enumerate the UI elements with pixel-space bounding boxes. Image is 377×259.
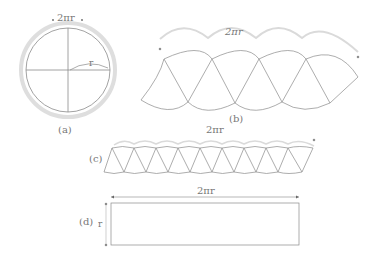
panel-d-width-label: 2πr	[197, 185, 215, 196]
panel-a-circumference-label: 2πr	[57, 12, 75, 23]
circle-area-diagram	[0, 0, 377, 259]
panel-b-label: (b)	[229, 113, 243, 124]
panel-a-radius-label: r	[89, 58, 93, 68]
panel-a-circle	[21, 19, 115, 117]
panel-c-label: (c)	[89, 153, 102, 164]
panel-b-circumference-label: 2πr	[225, 26, 243, 37]
panel-a-label: (a)	[58, 124, 72, 135]
panel-d-rectangle	[105, 196, 299, 246]
panel-b-sectors	[141, 28, 359, 110]
panel-c-sectors	[104, 139, 315, 173]
panel-d-height-label: r	[98, 219, 102, 229]
panel-c-circumference-label: 2πr	[206, 124, 224, 135]
panel-d-label: (d)	[79, 216, 93, 227]
